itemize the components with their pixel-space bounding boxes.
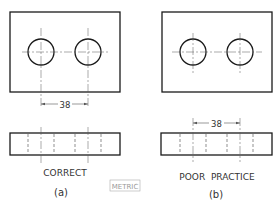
caption-correct: CORRECT [43,168,87,178]
panel-b-top-view [162,12,272,92]
panel-a-top-view [10,12,120,108]
caption-poor-practice: POOR PRACTICE [179,172,255,182]
dimension-label-b: 38 [211,119,222,129]
drawing-canvas: 38 CORRECT (a) METRIC 38 POOR PR [0,0,279,209]
metric-badge: METRIC [112,183,139,191]
panel-label-b: (b) [209,189,223,200]
panel-a-front-view [10,127,120,163]
dimension-label-a: 38 [60,100,71,110]
panel-label-a: (a) [54,187,68,198]
